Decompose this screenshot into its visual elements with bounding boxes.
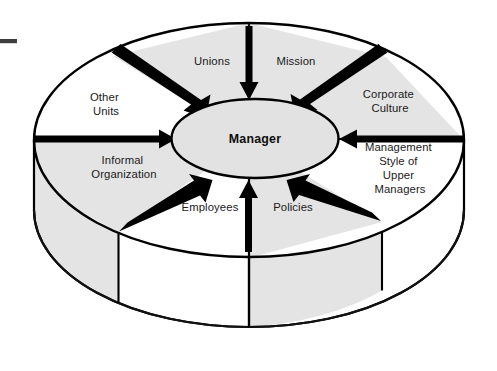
label-policies: Policies: [273, 201, 313, 213]
crop-dash-icon: [0, 39, 17, 43]
manager-hub: Manager: [172, 99, 339, 178]
label-mission: Mission: [277, 55, 316, 67]
manager-label: Manager: [229, 132, 281, 146]
diagram-canvas: Manager Unions Mission Corporate Culture…: [0, 0, 497, 371]
label-unions: Unions: [194, 55, 230, 67]
manager-environment-diagram: Manager Unions Mission Corporate Culture…: [0, 0, 497, 371]
label-employees: Employees: [182, 201, 239, 213]
